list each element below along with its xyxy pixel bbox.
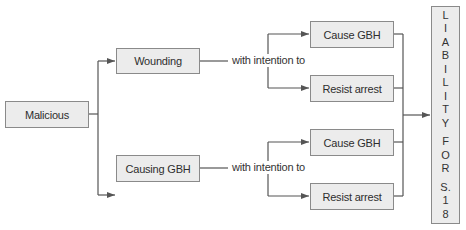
liability-letter: L [442,76,448,90]
liability-letter: F [442,135,449,149]
liability-letter: I [444,22,447,36]
liability-letter: O [441,149,450,163]
liability-letter: B [442,49,449,63]
node-cause-gbh-1: Cause GBH [310,21,394,48]
node-resist-arrest-1: Resist arrest [310,75,394,102]
liability-letter: A [442,36,449,50]
liability-letter: Y [442,117,449,131]
liability-letter: 1 [442,194,448,208]
node-causing-gbh: Causing GBH [116,155,200,182]
liability-letter: T [442,103,449,117]
label-with-intention-lower: with intention to [230,161,307,174]
liability-letter: I [444,90,447,104]
node-cause-gbh-2: Cause GBH [310,129,394,156]
node-liability-s18: LIABILITYFORS.18 [431,6,460,224]
liability-letter: R [442,162,450,176]
liability-letter: I [444,63,447,77]
liability-letter: S. [440,181,450,195]
node-resist-arrest-2: Resist arrest [310,183,394,210]
liability-letter: L [442,9,448,23]
node-wounding: Wounding [116,48,200,74]
node-malicious: Malicious [5,101,89,128]
label-with-intention-upper: with intention to [230,54,307,67]
liability-letter: 8 [442,208,448,222]
